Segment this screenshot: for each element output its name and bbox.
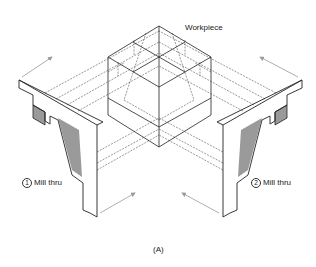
figure-caption: (A) bbox=[153, 245, 164, 254]
projection-lines-left bbox=[45, 31, 159, 170]
arrow-left-bottom bbox=[100, 193, 135, 213]
left-fixture bbox=[19, 80, 103, 217]
right-operation-text: Mill thru bbox=[263, 178, 291, 187]
step-number-circle: 1 bbox=[22, 178, 32, 188]
right-fixture bbox=[217, 80, 302, 217]
arrow-right-bottom bbox=[182, 193, 219, 213]
left-operation-label: 1Mill thru bbox=[22, 178, 62, 188]
workpiece-label: Workpiece bbox=[185, 23, 223, 32]
workpiece-cube bbox=[108, 26, 211, 147]
arrow-right-top bbox=[260, 57, 298, 77]
arrow-left-top bbox=[22, 57, 52, 77]
step-number-circle: 2 bbox=[251, 178, 261, 188]
right-operation-label: 2Mill thru bbox=[251, 178, 291, 188]
diagram-canvas bbox=[0, 0, 316, 267]
projection-lines-right bbox=[159, 31, 276, 170]
left-operation-text: Mill thru bbox=[34, 178, 62, 187]
